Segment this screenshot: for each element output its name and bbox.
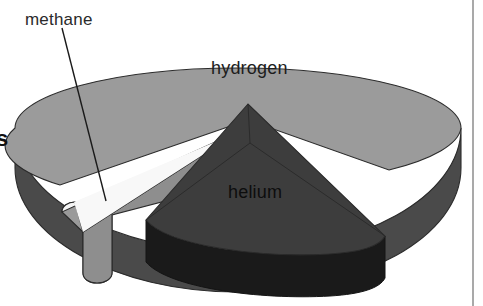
cropped-body-text-fragment: s — [0, 126, 8, 152]
slice-label-helium: helium — [228, 182, 282, 203]
slice-label-methane: methane — [25, 10, 93, 30]
page-margin-rule — [472, 0, 474, 306]
pie-chart-graphic — [0, 0, 483, 306]
pie-chart-figure: hydrogen helium methane s — [0, 0, 483, 306]
slice-label-hydrogen: hydrogen — [211, 58, 288, 79]
